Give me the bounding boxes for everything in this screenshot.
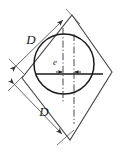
label-diameter-upper: D xyxy=(25,32,36,47)
engineering-diagram-figure: D D e xyxy=(0,0,122,155)
diagram-canvas: D D e xyxy=(0,0,122,155)
label-diameter-lower: D xyxy=(38,104,49,119)
label-eccentricity: e xyxy=(53,57,57,67)
circle-outline xyxy=(34,34,94,94)
